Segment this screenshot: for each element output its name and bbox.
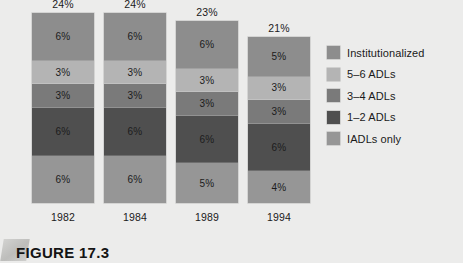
bar-stack: 6%3%3%6%6% bbox=[104, 13, 166, 203]
bar-segment-label: 3% bbox=[200, 75, 215, 86]
bar-total-label: 24% bbox=[32, 0, 94, 10]
legend-color-swatch-icon bbox=[327, 111, 340, 124]
bar-category-label: 1989 bbox=[176, 211, 238, 223]
legend-item-label: IADLs only bbox=[347, 133, 401, 145]
legend-color-swatch-icon bbox=[327, 46, 340, 59]
bar-segment: 3% bbox=[32, 61, 94, 85]
legend-item-label: 1–2 ADLs bbox=[347, 111, 396, 123]
bar-stack: 5%3%3%6%4% bbox=[248, 37, 310, 203]
bar-segment-label: 6% bbox=[128, 31, 143, 42]
bar-segment-label: 6% bbox=[56, 31, 71, 42]
bar-segment: 6% bbox=[32, 13, 94, 60]
bar-segment: 3% bbox=[32, 84, 94, 108]
bar-segment: 5% bbox=[176, 163, 238, 203]
bar-segment-label: 5% bbox=[200, 178, 215, 189]
legend-item[interactable]: Institutionalized bbox=[327, 44, 459, 61]
bar-segment: 6% bbox=[248, 124, 310, 171]
legend-item-label: 5–6 ADLs bbox=[347, 68, 396, 80]
bar-stack: 6%3%3%6%5% bbox=[176, 21, 238, 203]
legend-color-swatch-icon bbox=[327, 68, 340, 81]
bar-segment-label: 3% bbox=[128, 67, 143, 78]
bar-category-label: 1984 bbox=[104, 211, 166, 223]
bar-segment-label: 3% bbox=[56, 90, 71, 101]
bar-segment: 6% bbox=[176, 21, 238, 68]
bar-segment-label: 4% bbox=[272, 182, 287, 193]
legend-color-swatch-icon bbox=[327, 89, 340, 102]
bar-segment-label: 3% bbox=[56, 67, 71, 78]
bar-category-label: 1982 bbox=[32, 211, 94, 223]
bar-segment-label: 3% bbox=[128, 90, 143, 101]
bar-segment: 3% bbox=[248, 77, 310, 101]
bar-segment: 5% bbox=[248, 37, 310, 77]
bar-segment-label: 6% bbox=[200, 134, 215, 145]
bar-segment: 3% bbox=[176, 69, 238, 93]
legend-item[interactable]: 3–4 ADLs bbox=[327, 87, 459, 104]
bar-category-label: 1994 bbox=[248, 211, 310, 223]
chart-legend: Institutionalized5–6 ADLs3–4 ADLs1–2 ADL… bbox=[327, 44, 459, 152]
bar-total-label: 21% bbox=[248, 22, 310, 34]
bar-segment-label: 6% bbox=[128, 126, 143, 137]
bar-segment: 6% bbox=[104, 13, 166, 60]
bar-segment: 3% bbox=[248, 100, 310, 124]
bar-segment: 6% bbox=[104, 156, 166, 203]
bar-segment: 6% bbox=[32, 108, 94, 155]
legend-color-swatch-icon bbox=[327, 132, 340, 145]
bar-stack: 6%3%3%6%6% bbox=[32, 13, 94, 203]
figure-caption-block: FIGURE 17.3 bbox=[0, 235, 300, 263]
bar-segment-label: 5% bbox=[272, 51, 287, 62]
bar-total-label: 23% bbox=[176, 6, 238, 18]
bar-segment-label: 6% bbox=[56, 174, 71, 185]
bar-segment: 6% bbox=[176, 116, 238, 163]
legend-item-label: 3–4 ADLs bbox=[347, 90, 396, 102]
bar-segment-label: 3% bbox=[272, 82, 287, 93]
bar-segment-label: 3% bbox=[272, 106, 287, 117]
bar-segment: 6% bbox=[32, 156, 94, 203]
stacked-bar-chart: 6%3%3%6%6%24%19826%3%3%6%6%24%19846%3%3%… bbox=[0, 0, 320, 238]
bar-segment: 3% bbox=[176, 92, 238, 116]
figure-caption-label: FIGURE 17.3 bbox=[16, 244, 109, 261]
bar-segment: 4% bbox=[248, 171, 310, 203]
legend-item[interactable]: IADLs only bbox=[327, 130, 459, 147]
legend-item[interactable]: 1–2 ADLs bbox=[327, 109, 459, 126]
bar-segment-label: 6% bbox=[200, 39, 215, 50]
legend-item[interactable]: 5–6 ADLs bbox=[327, 66, 459, 83]
bar-segment: 6% bbox=[104, 108, 166, 155]
bar-segment-label: 6% bbox=[272, 142, 287, 153]
bar-segment-label: 6% bbox=[56, 126, 71, 137]
bar-total-label: 24% bbox=[104, 0, 166, 10]
figure-container: 6%3%3%6%6%24%19826%3%3%6%6%24%19846%3%3%… bbox=[0, 0, 463, 263]
bar-segment: 3% bbox=[104, 84, 166, 108]
bar-segment: 3% bbox=[104, 61, 166, 85]
bar-segment-label: 6% bbox=[128, 174, 143, 185]
legend-item-label: Institutionalized bbox=[347, 47, 425, 59]
bar-segment-label: 3% bbox=[200, 98, 215, 109]
